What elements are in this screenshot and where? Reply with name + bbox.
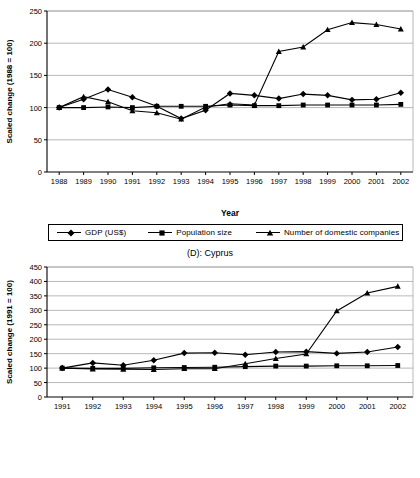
x-axis-tick-label: 1989 xyxy=(75,177,92,186)
x-axis-tick-label: 1994 xyxy=(145,402,162,411)
line-chart-bottom: 0501001502002503003504004501991199219931… xyxy=(0,259,420,431)
series-marker xyxy=(273,349,279,355)
series-marker xyxy=(276,103,281,108)
chart-figure-bottom: (D): Cyprus 0501001502002503003504004501… xyxy=(0,246,420,478)
x-axis-tick-label: 1995 xyxy=(176,402,193,411)
legend-label: Population size xyxy=(176,228,232,237)
line-chart-top: 0501001502002501988198919901991199219931… xyxy=(0,0,420,212)
legend-label: Number of domestic companies xyxy=(284,228,399,237)
series-marker xyxy=(365,363,370,368)
series-marker xyxy=(373,96,379,102)
legend-square-icon xyxy=(148,228,172,238)
x-axis-tick-label: 2000 xyxy=(328,402,345,411)
series-marker xyxy=(398,102,403,107)
x-axis-tick-label: 1991 xyxy=(124,177,141,186)
y-axis-title: Scaled change (1991 = 100) xyxy=(5,280,14,384)
y-axis-tick-label: 100 xyxy=(29,104,42,113)
series-line xyxy=(62,286,398,369)
series-marker xyxy=(81,105,86,110)
x-axis-tick-label: 1998 xyxy=(267,402,284,411)
series-marker xyxy=(106,105,111,110)
series-marker xyxy=(181,350,187,356)
series-marker xyxy=(334,350,340,356)
legend-item: Number of domestic companies xyxy=(256,228,399,238)
y-axis-tick-label: 450 xyxy=(29,263,42,272)
series-marker xyxy=(349,97,355,103)
series-marker xyxy=(251,92,257,98)
legend-item: Population size xyxy=(148,228,232,238)
y-axis-title: Scaled change (1988 = 100) xyxy=(5,39,14,143)
x-axis-tick-label: 1996 xyxy=(206,402,223,411)
legend-diamond-icon xyxy=(57,228,81,238)
x-axis-title-top: Year xyxy=(47,208,413,218)
x-axis-tick-label: 2000 xyxy=(344,177,361,186)
series-marker xyxy=(276,95,282,101)
x-axis-tick-label: 1998 xyxy=(295,177,312,186)
series-line xyxy=(62,347,398,368)
x-axis-tick-label: 1999 xyxy=(298,402,315,411)
series-marker xyxy=(154,104,159,109)
x-axis-tick-label: 1997 xyxy=(270,177,287,186)
chart-figure-top: 0501001502002501988198919901991199219931… xyxy=(0,0,420,246)
series-marker xyxy=(273,364,278,369)
series-marker xyxy=(324,92,330,98)
y-axis-tick-label: 0 xyxy=(38,393,42,402)
series-marker xyxy=(325,103,330,108)
y-axis-tick-label: 150 xyxy=(29,350,42,359)
y-axis-tick-label: 300 xyxy=(29,306,42,315)
series-marker xyxy=(242,352,248,358)
x-axis-tick-label: 1991 xyxy=(54,402,71,411)
series-marker xyxy=(129,94,135,100)
y-axis-tick-label: 250 xyxy=(29,7,42,16)
x-axis-tick-label: 1988 xyxy=(51,177,68,186)
series-marker xyxy=(398,90,404,96)
chart-legend-top: GDP (US$)Population sizeNumber of domest… xyxy=(48,224,403,241)
series-marker xyxy=(90,360,96,366)
series-marker xyxy=(227,90,233,96)
y-axis-tick-label: 50 xyxy=(34,379,42,388)
x-axis-tick-label: 1992 xyxy=(84,402,101,411)
y-axis-tick-label: 200 xyxy=(29,335,42,344)
x-axis-tick-label: 1993 xyxy=(173,177,190,186)
x-axis-tick-label: 1992 xyxy=(148,177,165,186)
legend-item: GDP (US$) xyxy=(57,228,126,238)
y-axis-tick-label: 150 xyxy=(29,71,42,80)
figure-page: 0501001502002501988198919901991199219931… xyxy=(0,0,420,478)
y-axis-tick-label: 50 xyxy=(34,136,42,145)
series-marker xyxy=(364,349,370,355)
plot-area-top: 0501001502002501988198919901991199219931… xyxy=(0,0,420,212)
series-marker xyxy=(304,364,309,369)
y-axis-tick-label: 250 xyxy=(29,321,42,330)
y-axis-tick-label: 0 xyxy=(38,168,42,177)
x-axis-tick-label: 1997 xyxy=(237,402,254,411)
y-axis-tick-label: 400 xyxy=(29,277,42,286)
series-marker xyxy=(212,350,218,356)
series-marker xyxy=(395,363,400,368)
y-axis-tick-label: 200 xyxy=(29,39,42,48)
series-marker xyxy=(334,363,339,368)
series-marker xyxy=(395,283,401,288)
series-marker xyxy=(151,357,157,363)
y-axis-tick-label: 350 xyxy=(29,292,42,301)
series-marker xyxy=(179,104,184,109)
series-marker xyxy=(300,44,306,49)
series-marker xyxy=(81,94,87,99)
series-marker xyxy=(350,103,355,108)
y-axis-tick-label: 100 xyxy=(29,364,42,373)
x-axis-tick-label: 2002 xyxy=(392,177,409,186)
x-axis-tick-label: 2001 xyxy=(368,177,385,186)
series-marker xyxy=(105,86,111,92)
legend-triangle-icon xyxy=(256,228,280,238)
legend-label: GDP (US$) xyxy=(85,228,126,237)
series-marker xyxy=(300,91,306,97)
x-axis-tick-label: 1996 xyxy=(246,177,263,186)
x-axis-tick-label: 1990 xyxy=(100,177,117,186)
x-axis-tick-label: 2001 xyxy=(359,402,376,411)
x-axis-tick-label: 1999 xyxy=(319,177,336,186)
series-marker xyxy=(301,103,306,108)
x-axis-tick-label: 1994 xyxy=(197,177,214,186)
x-axis-tick-label: 1995 xyxy=(222,177,239,186)
x-axis-tick-label: 1993 xyxy=(115,402,132,411)
chart-title-bottom: (D): Cyprus xyxy=(0,246,420,259)
series-marker xyxy=(374,103,379,108)
